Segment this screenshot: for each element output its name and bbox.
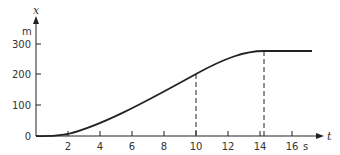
- position-curve: [36, 51, 312, 136]
- y-tick-label: 100: [12, 100, 31, 111]
- x-tick-label: 14: [254, 141, 267, 152]
- y-ticks: [36, 44, 41, 105]
- x-tick-label: 8: [161, 141, 167, 152]
- x-tick-label: 4: [97, 141, 103, 152]
- y-tick-label: 200: [12, 69, 31, 80]
- x-tick-label: 12: [222, 141, 235, 152]
- y-unit-label: m: [22, 26, 32, 37]
- chart: x m 300 200 100 0 2 4 6 8 10 12 14 16 s …: [0, 0, 340, 155]
- y-tick-label: 300: [12, 39, 31, 50]
- x-ticks: [68, 131, 292, 136]
- x-tick-label: 2: [65, 141, 71, 152]
- y-tick-label: 0: [25, 131, 31, 142]
- y-axis-label: x: [33, 4, 40, 17]
- x-tick-label: 6: [129, 141, 135, 152]
- y-axis-arrow-icon: [33, 16, 39, 24]
- x-tick-label: 16: [286, 141, 299, 152]
- x-unit-label: s: [303, 141, 308, 152]
- x-axis-arrow-icon: [316, 133, 324, 139]
- x-axis-label: t: [327, 130, 332, 143]
- x-tick-label: 10: [190, 141, 203, 152]
